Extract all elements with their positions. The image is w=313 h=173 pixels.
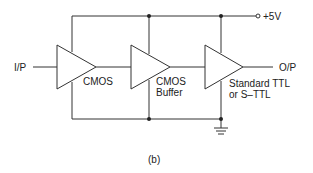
junction-dot [219,117,223,121]
figure-caption: (b) [148,154,160,165]
stage2-label-line1: CMOS [156,76,186,87]
circuit-diagram: +5V I/P O/P CMOS CMOS Buffer Standard TT… [0,0,313,173]
stage3-label-line2: or S–TTL [229,89,271,100]
junction-dot [219,14,223,18]
stage1-label: CMOS [83,76,113,87]
junction-dot [147,117,151,121]
output-label: O/P [279,62,297,73]
supply-terminal-icon [256,14,260,18]
input-label: I/P [14,62,27,73]
stage2-label-line2: Buffer [156,87,183,98]
ground-icon [214,128,228,134]
junction-dot [147,14,151,18]
supply-label: +5V [263,11,281,22]
stage3-label-line1: Standard TTL [229,78,290,89]
